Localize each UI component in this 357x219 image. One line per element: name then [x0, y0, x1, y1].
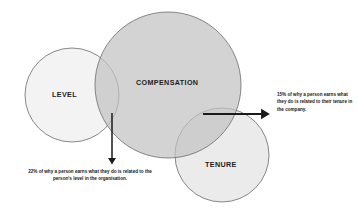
- annotation-level-text: 22% of why a person earns what they do i…: [26, 168, 154, 183]
- circle-compensation: [95, 12, 241, 158]
- annotation-tenure-text: 15% of why a person earns what they do i…: [277, 91, 355, 113]
- venn-diagram-figure: LEVEL COMPENSATION TENURE 22% of why a p…: [0, 0, 357, 219]
- figure-caption: [5, 210, 205, 219]
